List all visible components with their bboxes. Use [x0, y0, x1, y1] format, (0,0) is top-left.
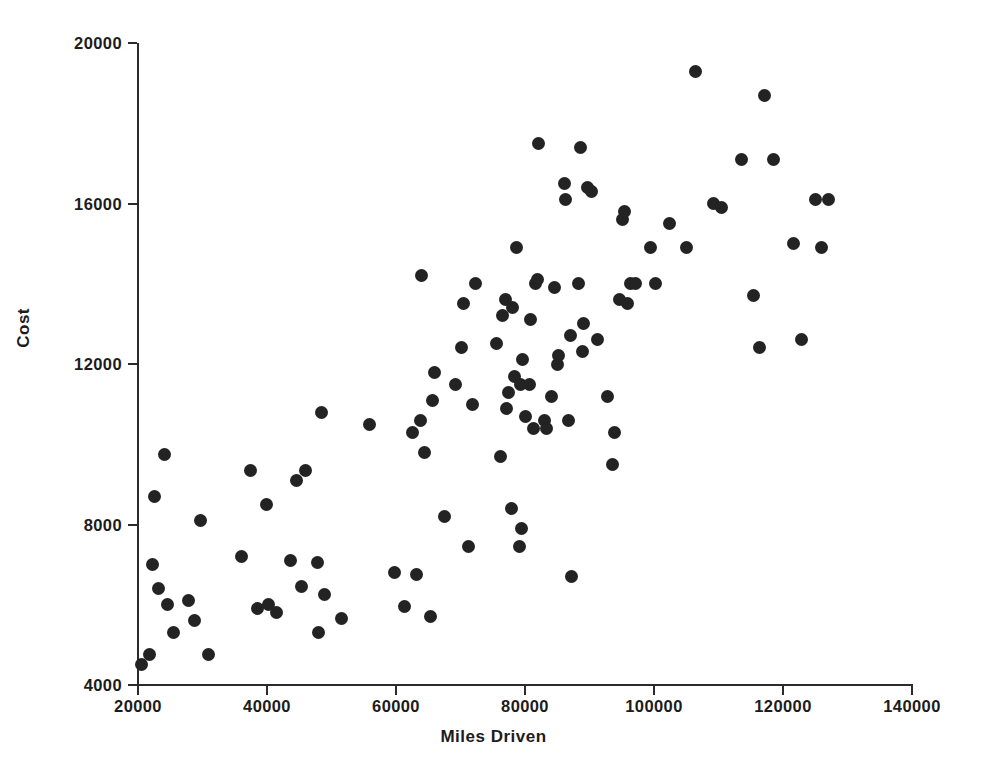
data-point — [469, 277, 482, 290]
data-point — [540, 422, 553, 435]
data-point — [455, 341, 468, 354]
data-point — [576, 345, 589, 358]
data-point — [564, 329, 577, 342]
data-point — [182, 594, 195, 607]
data-point — [591, 333, 604, 346]
data-point — [767, 153, 780, 166]
data-point — [457, 297, 470, 310]
data-point — [585, 185, 598, 198]
data-point — [428, 366, 441, 379]
data-point — [680, 241, 693, 254]
data-point — [572, 277, 585, 290]
data-point — [513, 540, 526, 553]
data-point — [398, 600, 411, 613]
data-point — [312, 626, 325, 639]
data-point — [284, 554, 297, 567]
data-point — [621, 297, 634, 310]
data-point — [235, 550, 248, 563]
y-axis-title: Cost — [14, 308, 34, 348]
data-point — [466, 398, 479, 411]
data-point — [649, 277, 662, 290]
data-point — [565, 570, 578, 583]
x-axis-title: Miles Driven — [0, 727, 987, 747]
data-point — [500, 402, 513, 415]
data-point — [363, 418, 376, 431]
data-point — [531, 273, 544, 286]
data-point — [502, 386, 515, 399]
data-point — [143, 648, 156, 661]
data-point — [388, 566, 401, 579]
data-point — [735, 153, 748, 166]
data-point — [562, 414, 575, 427]
data-point — [618, 205, 631, 218]
data-point — [753, 341, 766, 354]
data-point — [787, 237, 800, 250]
data-point — [244, 464, 257, 477]
data-point — [335, 612, 348, 625]
data-point — [505, 502, 518, 515]
data-point — [577, 317, 590, 330]
data-point — [167, 626, 180, 639]
data-point — [815, 241, 828, 254]
data-point — [410, 568, 423, 581]
data-point — [414, 414, 427, 427]
data-point — [418, 446, 431, 459]
scatter-plot-figure: 40008000120001600020000 2000040000600008… — [0, 0, 987, 771]
data-point — [532, 137, 545, 150]
data-point — [311, 556, 324, 569]
data-point — [202, 648, 215, 661]
data-point — [601, 390, 614, 403]
data-point — [795, 333, 808, 346]
data-point — [188, 614, 201, 627]
data-point — [689, 65, 702, 78]
data-point — [822, 193, 835, 206]
data-point — [548, 281, 561, 294]
data-point — [415, 269, 428, 282]
data-point — [161, 598, 174, 611]
data-point — [315, 406, 328, 419]
data-point — [426, 394, 439, 407]
data-point — [270, 606, 283, 619]
data-point — [515, 522, 528, 535]
data-point — [608, 426, 621, 439]
data-point — [510, 241, 523, 254]
data-point — [663, 217, 676, 230]
data-point — [260, 498, 273, 511]
data-point — [152, 582, 165, 595]
data-points-layer — [0, 0, 987, 771]
data-point — [506, 301, 519, 314]
data-point — [519, 410, 532, 423]
data-point — [146, 558, 159, 571]
data-point — [424, 610, 437, 623]
data-point — [559, 193, 572, 206]
data-point — [558, 177, 571, 190]
data-point — [295, 580, 308, 593]
data-point — [545, 390, 558, 403]
data-point — [318, 588, 331, 601]
data-point — [148, 490, 161, 503]
data-point — [747, 289, 760, 302]
data-point — [494, 450, 507, 463]
data-point — [406, 426, 419, 439]
data-point — [490, 337, 503, 350]
data-point — [644, 241, 657, 254]
data-point — [809, 193, 822, 206]
data-point — [629, 277, 642, 290]
data-point — [524, 313, 537, 326]
data-point — [449, 378, 462, 391]
data-point — [516, 353, 529, 366]
data-point — [574, 141, 587, 154]
data-point — [606, 458, 619, 471]
data-point — [438, 510, 451, 523]
data-point — [194, 514, 207, 527]
data-point — [299, 464, 312, 477]
data-point — [758, 89, 771, 102]
data-point — [715, 201, 728, 214]
data-point — [523, 378, 536, 391]
data-point — [462, 540, 475, 553]
data-point — [158, 448, 171, 461]
